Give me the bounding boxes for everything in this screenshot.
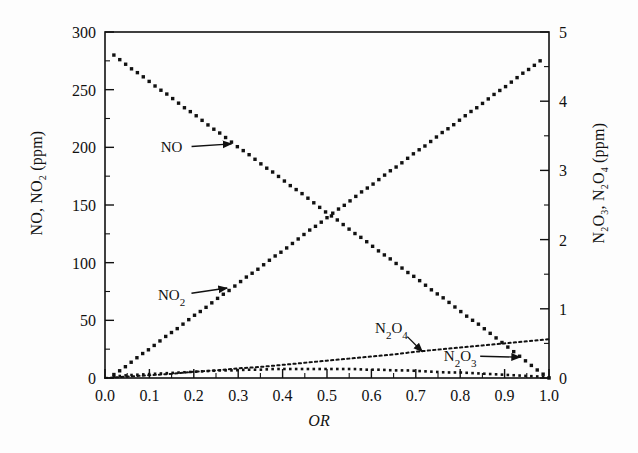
data-point — [507, 374, 510, 377]
chart-figure: 0.00.10.20.30.40.50.60.70.80.91.00501001… — [0, 0, 638, 453]
data-point — [153, 84, 156, 87]
data-point — [166, 372, 169, 375]
data-point — [465, 372, 468, 375]
data-point — [533, 64, 536, 67]
data-point — [318, 368, 321, 371]
data-point — [297, 237, 300, 240]
data-point — [477, 322, 480, 325]
data-point — [206, 123, 209, 126]
data-point — [216, 297, 219, 300]
data-point — [354, 195, 357, 198]
data-point — [430, 288, 433, 291]
data-point — [459, 310, 462, 313]
data-point — [254, 368, 257, 371]
y-tick-label-right: 4 — [559, 93, 567, 110]
data-point — [224, 136, 227, 139]
data-point — [130, 67, 133, 70]
data-point — [189, 371, 192, 374]
data-point — [383, 173, 386, 176]
data-point — [412, 275, 415, 278]
data-point — [324, 368, 327, 371]
data-point — [423, 144, 426, 147]
data-point — [201, 370, 204, 373]
data-point — [501, 373, 504, 376]
data-point — [401, 369, 404, 372]
data-point — [377, 368, 380, 371]
data-point — [176, 327, 179, 330]
data-point — [277, 368, 280, 371]
data-point — [124, 365, 127, 368]
x-tick-label: 0.0 — [95, 387, 115, 404]
data-point — [377, 249, 380, 252]
data-point — [147, 348, 150, 351]
data-point — [471, 372, 474, 375]
series-NO2 — [112, 59, 542, 376]
data-point — [424, 284, 427, 287]
y-tick-label-left: 150 — [72, 197, 96, 214]
data-point — [527, 68, 530, 71]
data-point — [330, 368, 333, 371]
data-point — [407, 369, 410, 372]
data-point — [365, 240, 368, 243]
data-point — [312, 201, 315, 204]
data-point — [164, 335, 167, 338]
data-point — [245, 275, 248, 278]
x-tick-label: 0.6 — [361, 387, 381, 404]
data-point — [283, 179, 286, 182]
data-point — [518, 374, 521, 377]
data-point — [515, 76, 518, 79]
data-point — [224, 369, 227, 372]
data-point — [354, 368, 357, 371]
data-point — [377, 178, 380, 181]
data-point — [250, 272, 253, 275]
data-point — [506, 345, 509, 348]
data-point — [371, 245, 374, 248]
x-axis-title: OR — [0, 412, 638, 430]
data-point — [436, 292, 439, 295]
data-point — [239, 280, 242, 283]
data-point — [159, 89, 162, 92]
data-point — [524, 375, 527, 378]
data-point — [318, 206, 321, 209]
data-point — [233, 284, 236, 287]
data-point — [521, 72, 524, 75]
data-point — [313, 368, 316, 371]
data-point — [489, 373, 492, 376]
data-point — [218, 131, 221, 134]
annotation-N2O4: N2O4 — [375, 320, 408, 341]
data-point — [464, 114, 467, 117]
data-point — [331, 211, 334, 214]
data-point — [365, 368, 368, 371]
chart-canvas: 0.00.10.20.30.40.50.60.70.80.91.00501001… — [0, 0, 638, 453]
data-point — [136, 373, 139, 376]
data-point — [195, 114, 198, 117]
data-point — [406, 157, 409, 160]
data-point — [136, 71, 139, 74]
data-point — [435, 135, 438, 138]
series-N2O3 — [113, 368, 551, 379]
data-point — [236, 145, 239, 148]
data-point — [492, 93, 495, 96]
data-point — [417, 148, 420, 151]
data-point — [336, 218, 339, 221]
plot-frame — [105, 32, 549, 378]
data-point — [524, 359, 527, 362]
data-point — [154, 372, 157, 375]
data-point — [213, 369, 216, 372]
data-point — [113, 375, 116, 378]
x-tick-label: 0.3 — [228, 387, 248, 404]
data-point — [285, 246, 288, 249]
data-point — [452, 123, 455, 126]
data-point — [248, 368, 251, 371]
series-NO — [112, 53, 551, 379]
data-point — [295, 368, 298, 371]
data-point — [394, 165, 397, 168]
y-tick-label-left: 200 — [72, 139, 96, 156]
x-tick-label: 0.2 — [184, 387, 204, 404]
data-point — [283, 368, 286, 371]
data-point — [489, 332, 492, 335]
data-point — [536, 375, 539, 378]
data-point — [494, 336, 497, 339]
data-point — [268, 259, 271, 262]
data-point — [389, 369, 392, 372]
